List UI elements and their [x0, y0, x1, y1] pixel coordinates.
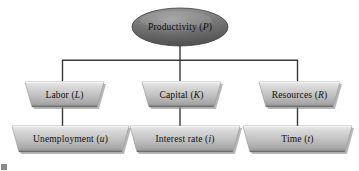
node-interest-rate[interactable]: Interest rate (i) — [130, 126, 240, 152]
node-label-capital: Capital (K) — [142, 82, 221, 107]
node-productivity[interactable]: Productivity (P) — [132, 8, 228, 46]
node-label-productivity: Productivity (P) — [132, 8, 228, 46]
diagram-canvas: Productivity (P) Labor (L) Capital (K) R… — [0, 0, 359, 171]
node-unemployment[interactable]: Unemployment (u) — [12, 126, 129, 152]
node-resources[interactable]: Resources (R) — [259, 82, 340, 107]
node-label-labor: Labor (L) — [25, 82, 104, 107]
node-label-resources: Resources (R) — [259, 82, 340, 107]
node-capital[interactable]: Capital (K) — [142, 82, 221, 107]
corner-artifact-mark — [1, 164, 7, 170]
node-label-interest-rate: Interest rate (i) — [130, 126, 240, 152]
node-time[interactable]: Time (t) — [243, 126, 352, 152]
node-label-time: Time (t) — [243, 126, 352, 152]
node-labor[interactable]: Labor (L) — [25, 82, 104, 107]
node-label-unemployment: Unemployment (u) — [12, 126, 129, 152]
